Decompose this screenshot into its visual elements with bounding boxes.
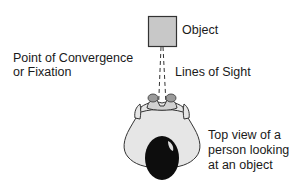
person-caption-line2: person looking (208, 143, 289, 157)
convergence-label-line2: or Fixation (13, 65, 71, 79)
object-label: Object (182, 23, 218, 37)
right-eye-icon (166, 94, 176, 102)
object-square (149, 17, 177, 47)
lines-of-sight-label: Lines of Sight (175, 65, 251, 79)
left-hand (135, 104, 141, 119)
left-eye-icon (148, 94, 158, 102)
person-head (145, 136, 179, 180)
person-caption-line1: Top view of a (208, 128, 281, 142)
person-caption-line3: at an object (208, 158, 273, 172)
convergence-label-line1: Point of Convergence (13, 51, 133, 65)
right-hand (183, 104, 189, 119)
